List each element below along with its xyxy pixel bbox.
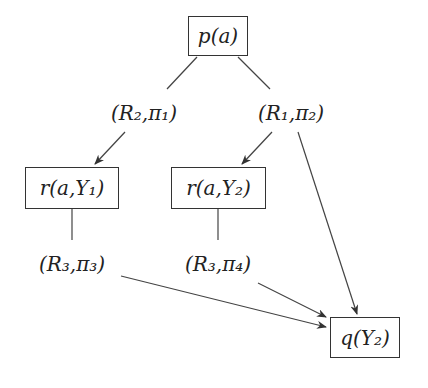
label-r2-pi1: (R₂,π₁)	[111, 101, 177, 125]
edge-p-to-r1pi2	[238, 57, 270, 89]
label-r3-pi3: (R₃,π₃)	[39, 252, 105, 276]
label-r1-pi2: (R₁,π₂)	[258, 101, 324, 125]
edge-r1pi2-to-q	[298, 132, 357, 314]
edge-p-to-r2pi1	[167, 57, 197, 89]
node-p-a: p(a)	[188, 16, 248, 56]
node-r-a-y1: r(a,Y₁)	[25, 167, 119, 209]
edge-r2pi1-to-r1box	[95, 132, 125, 164]
label-r3-pi4: (R₃,π₄)	[185, 252, 251, 276]
node-q-y2: q(Y₂)	[330, 317, 400, 358]
edge-r1pi2-to-r2box	[242, 132, 272, 164]
edge-r3pi4-to-q	[258, 283, 326, 317]
node-r-a-y2: r(a,Y₂)	[171, 167, 266, 209]
